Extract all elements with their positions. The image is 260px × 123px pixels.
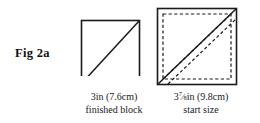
figure-diagram: Fig 2a 3in (7 (0, 0, 260, 123)
caption-start-description: start size (156, 104, 246, 117)
measure-unit-metric: in (9.8cm) (187, 91, 229, 102)
caption-start-size-measure: 37⁄8in (9.8cm) (156, 91, 246, 104)
start-size-square (154, 6, 240, 90)
caption-finished-size: 3in (7.6cm) (72, 91, 156, 104)
panel-finished-block (78, 6, 150, 76)
measure-fraction: 7⁄8 (179, 91, 187, 104)
caption-start-size: 37⁄8in (9.8cm) start size (156, 91, 246, 116)
outer-square-outline (82, 21, 140, 77)
finished-block-square (78, 6, 150, 76)
panel-start-size (154, 6, 240, 90)
fraction-denominator: 8 (183, 94, 186, 101)
caption-finished-description: finished block (72, 104, 156, 117)
caption-finished-block: 3in (7.6cm) finished block (72, 91, 156, 116)
figure-label: Fig 2a (15, 46, 50, 61)
